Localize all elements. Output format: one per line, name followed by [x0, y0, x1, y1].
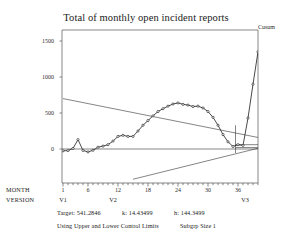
y-tick-label-1000: 1000: [28, 74, 54, 80]
data-point-marker: [197, 105, 199, 107]
data-point-marker: [237, 144, 239, 146]
x-tick-label-12: 12: [112, 187, 124, 193]
plot-inner: [62, 51, 264, 180]
data-point-marker: [257, 51, 259, 53]
data-point-marker: [227, 141, 229, 143]
data-point-marker: [192, 105, 194, 107]
x-tick-label-24: 24: [172, 187, 184, 193]
data-point-marker: [247, 117, 249, 119]
data-point-marker: [107, 144, 109, 146]
data-point-marker: [162, 108, 164, 110]
data-point-marker: [82, 149, 84, 151]
data-point-marker: [67, 149, 69, 151]
version-group-v2: V2: [106, 196, 120, 203]
limits-note: Using Upper and Lower Control Limits: [57, 222, 159, 229]
target-label: Target:: [57, 209, 75, 216]
data-point-marker: [147, 119, 149, 121]
h-value: 144.3499: [181, 209, 205, 216]
y-tick-label-500: 500: [28, 110, 54, 116]
chart-plot-area: [0, 0, 292, 243]
data-point-marker: [142, 124, 144, 126]
data-point-marker: [117, 135, 119, 137]
lower-control-limit-line: [133, 148, 258, 179]
y-tick-label-1500: 1500: [28, 38, 54, 44]
version-group-v1: V1: [56, 196, 70, 203]
data-point-marker: [242, 144, 244, 146]
data-point-marker: [222, 134, 224, 136]
data-point-marker: [62, 150, 64, 152]
footer-notes: Using Upper and Lower Control Limits Sub…: [57, 222, 216, 229]
data-point-marker: [97, 146, 99, 148]
data-point-marker: [212, 116, 214, 118]
data-point-marker: [87, 151, 89, 153]
data-point-marker: [112, 140, 114, 142]
data-point-marker: [187, 104, 189, 106]
data-point-marker: [137, 130, 139, 132]
data-point-marker: [132, 135, 134, 137]
data-point-marker: [102, 145, 104, 147]
data-point-marker: [177, 102, 179, 104]
data-point-marker: [167, 105, 169, 107]
x-tick-label-36: 36: [232, 187, 244, 193]
h-label: h:: [174, 209, 179, 216]
data-point-marker: [152, 115, 154, 117]
data-point-marker: [122, 134, 124, 136]
y-tick-label-0: 0: [28, 146, 54, 152]
data-point-marker: [202, 107, 204, 109]
footer-parameters: Target: 541.2846 k: 14.43499 h: 144.3499: [57, 209, 205, 216]
k-label: k:: [122, 209, 127, 216]
plot-frame: [62, 30, 258, 183]
data-point-marker: [157, 110, 159, 112]
data-point-marker: [217, 124, 219, 126]
row-header-month: MONTH: [6, 186, 30, 193]
row-header-version: VERSION: [6, 196, 34, 203]
target-value: 541.2846: [77, 209, 101, 216]
data-point-marker: [72, 147, 74, 149]
data-point-marker: [77, 139, 79, 141]
data-point-marker: [92, 149, 94, 151]
data-point-marker: [207, 110, 209, 112]
x-tick-label-30: 30: [202, 187, 214, 193]
data-point-marker: [172, 103, 174, 105]
cusum-series-line: [63, 52, 258, 152]
cusum-chart-page: Total of monthly open incident reports C…: [0, 0, 292, 243]
x-tick-label-1: 1: [57, 187, 69, 193]
data-point-marker: [127, 135, 129, 137]
x-tick-label-18: 18: [142, 187, 154, 193]
data-point-marker: [182, 103, 184, 105]
version-group-v3: V3: [238, 196, 252, 203]
subgroup-note: Subgrp Size 1: [180, 222, 216, 229]
x-tick-label-6: 6: [82, 187, 94, 193]
k-value: 14.43499: [129, 209, 153, 216]
data-point-marker: [232, 145, 234, 147]
data-point-marker: [252, 83, 254, 85]
upper-control-limit-line: [63, 99, 258, 138]
